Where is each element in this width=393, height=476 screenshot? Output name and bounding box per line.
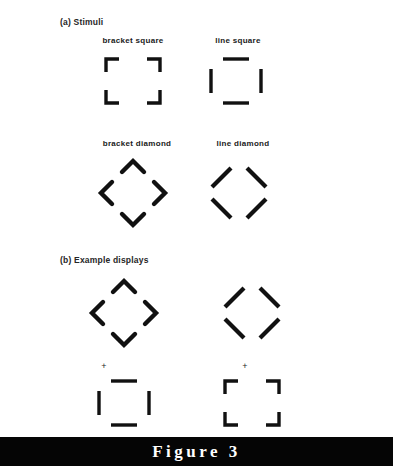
caption-line-diamond: line diamond — [217, 139, 270, 148]
stimulus-line-diamond — [206, 160, 272, 226]
caption-line-square: line square — [215, 36, 261, 45]
display-left-target-bracket-diamond — [89, 278, 159, 348]
stimulus-bracket-square — [102, 53, 164, 109]
stimulus-bracket-diamond — [98, 158, 168, 228]
display-right-target-line-diamond — [219, 280, 285, 346]
fixation-cross-right: + — [242, 362, 247, 371]
panel-a-label: (a) Stimuli — [60, 17, 103, 27]
figure-caption-text: Figure 3 — [152, 442, 241, 462]
figure-page: (a) Stimuli bracket square line square b… — [0, 0, 393, 476]
fixation-cross-left: + — [101, 362, 106, 371]
figure-caption-bar: Figure 3 — [0, 437, 393, 466]
caption-bracket-diamond: bracket diamond — [103, 139, 172, 148]
caption-bracket-square: bracket square — [102, 36, 163, 45]
panel-b-label: (b) Example displays — [60, 255, 149, 265]
stimulus-line-square — [207, 54, 265, 108]
display-right-probe-bracket-square — [221, 375, 283, 431]
display-left-probe-line-square — [95, 376, 153, 430]
